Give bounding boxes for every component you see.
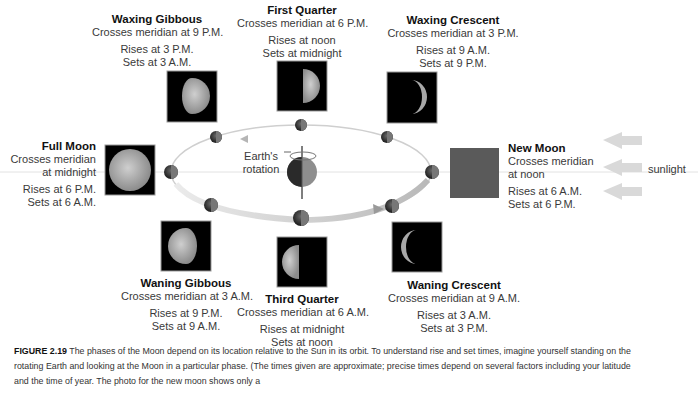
set-text: Sets at 3 A.M. (92, 56, 222, 69)
earth-rotation-label: Earth's rotation (236, 150, 286, 176)
phase-title: First Quarter (237, 4, 367, 17)
rise-text: Rises at 3 A.M. (384, 309, 524, 322)
label-waxing-gibbous: Waxing Gibbous Crosses meridian at 9 P.M… (92, 13, 222, 69)
rise-text: Rises at 9 A.M. (387, 44, 519, 57)
meridian-text: Crosses meridian (4, 153, 96, 166)
phase-title: Waxing Crescent (387, 14, 519, 27)
photo-waning-crescent (392, 222, 442, 272)
phase-title: Waning Crescent (384, 279, 524, 292)
meridian-text: Crosses meridian at 3 P.M. (387, 27, 519, 40)
rotation-label-line2: rotation (236, 163, 286, 176)
meridian-text: Crosses meridian at 3 A.M. (121, 290, 251, 303)
sunlight-label: sunlight (648, 163, 686, 176)
phase-title: Waning Gibbous (121, 277, 251, 290)
photo-waxing-crescent (387, 72, 437, 123)
label-new-moon: New Moon Crosses meridian at noon Rises … (508, 142, 600, 211)
orbit-arrow-top-icon (240, 135, 248, 143)
label-waning-crescent: Waning Crescent Crosses meridian at 9 A.… (384, 279, 524, 335)
set-text: Sets at 9 P.M. (387, 57, 519, 70)
set-text: Sets at midnight (237, 47, 367, 60)
meridian-text-2: at noon (508, 168, 600, 181)
rotation-label-line1: Earth's (236, 150, 286, 163)
phase-title: Full Moon (4, 140, 96, 153)
meridian-text: Crosses meridian at 9 A.M. (384, 292, 524, 305)
label-full-moon: Full Moon Crosses meridian at midnight R… (4, 140, 96, 209)
meridian-text: Crosses meridian (508, 155, 600, 168)
set-text: Sets at 6 A.M. (4, 196, 96, 209)
rise-text: Rises at noon (237, 34, 367, 47)
meridian-text: Crosses meridian at 9 P.M. (92, 26, 222, 39)
meridian-text-2: at midnight (4, 166, 96, 179)
set-text: Sets at 3 P.M. (384, 322, 524, 335)
label-waxing-crescent: Waxing Crescent Crosses meridian at 3 P.… (387, 14, 519, 70)
phase-title: Waxing Gibbous (92, 13, 222, 26)
set-text: Sets at 6 P.M. (508, 198, 600, 211)
phase-title: New Moon (508, 142, 600, 155)
caption-text: The phases of the Moon depend on its loc… (14, 345, 631, 386)
sunlight-arrows-icon (603, 132, 642, 200)
rise-text: Rises at midnight (237, 323, 367, 336)
figure-caption: FIGURE 2.19 The phases of the Moon depen… (14, 343, 640, 388)
meridian-text: Crosses meridian at 6 A.M. (237, 306, 367, 319)
rise-text: Rises at 9 P.M. (121, 307, 251, 320)
rise-text: Rises at 6 P.M. (4, 183, 96, 196)
rise-text: Rises at 3 P.M. (92, 43, 222, 56)
set-text: Sets at 9 A.M. (121, 320, 251, 333)
rise-text: Rises at 6 A.M. (508, 185, 600, 198)
label-third-quarter: Third Quarter Crosses meridian at 6 A.M.… (237, 293, 367, 349)
meridian-text: Crosses meridian at 6 P.M. (237, 17, 367, 30)
figure-label: FIGURE 2.19 (14, 345, 67, 356)
label-waning-gibbous: Waning Gibbous Crosses meridian at 3 A.M… (121, 277, 251, 333)
phase-title: Third Quarter (237, 293, 367, 306)
label-first-quarter: First Quarter Crosses meridian at 6 P.M.… (237, 4, 367, 60)
photo-new-moon (450, 148, 499, 198)
